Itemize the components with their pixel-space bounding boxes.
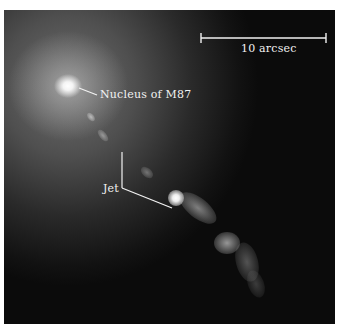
annotation-lines xyxy=(4,10,335,324)
m87-photograph: 10 arcsec Nucleus of M87 Jet xyxy=(4,10,335,324)
nucleus-label: Nucleus of M87 xyxy=(100,88,191,101)
scale-bar-label: 10 arcsec xyxy=(241,42,297,55)
jet-label: Jet xyxy=(103,182,119,195)
